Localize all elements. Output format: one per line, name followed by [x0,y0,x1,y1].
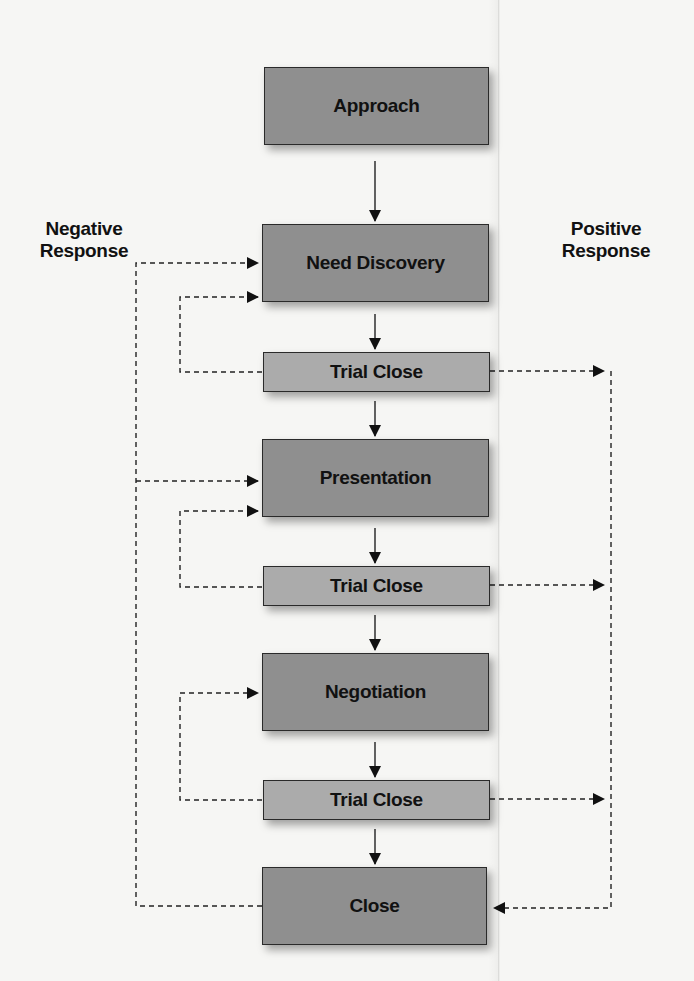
step-trial-close-2-label: Trial Close [330,575,423,597]
negative-response-label: Negative Response [32,218,136,262]
positive-response-connectors [490,371,611,908]
negative-outer-to-need-discovery [136,263,262,906]
positive-response-label: Positive Response [554,218,658,262]
step-need-discovery-label: Need Discovery [306,252,444,274]
step-close-label: Close [349,895,399,917]
step-negotiation: Negotiation [262,653,489,731]
negative-trial-close-2-to-presentation [180,511,262,587]
step-trial-close-3-label: Trial Close [330,789,423,811]
negative-trial-close-1-to-need-discovery [180,297,262,372]
negative-trial-close-3-to-negotiation [180,693,262,800]
step-need-discovery: Need Discovery [262,224,489,302]
step-close: Close [262,867,487,945]
step-trial-close-3: Trial Close [263,780,490,820]
negative-response-connectors [136,263,262,906]
step-trial-close-1: Trial Close [263,352,490,392]
step-negotiation-label: Negotiation [325,681,426,703]
positive-response-label-line2: Response [554,240,658,262]
step-approach-label: Approach [333,95,419,117]
negative-response-label-line2: Response [32,240,136,262]
negative-response-label-line1: Negative [32,218,136,240]
step-trial-close-1-label: Trial Close [330,361,423,383]
step-presentation-label: Presentation [320,467,432,489]
step-trial-close-2: Trial Close [263,566,490,606]
page-fold-line [498,0,499,981]
positive-response-label-line1: Positive [554,218,658,240]
step-presentation: Presentation [262,439,489,517]
step-approach: Approach [264,67,489,145]
positive-to-close [494,371,611,908]
